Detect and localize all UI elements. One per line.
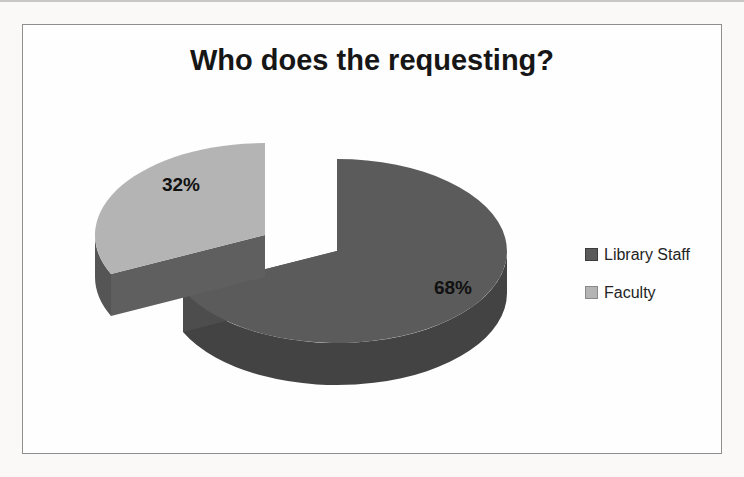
legend-label-faculty: Faculty <box>604 284 656 302</box>
legend-item-faculty: Faculty <box>585 281 690 304</box>
legend-label-library-staff: Library Staff <box>604 246 690 264</box>
pie-chart <box>0 0 744 477</box>
data-label-faculty: 32% <box>162 174 200 196</box>
data-label-library-staff: 68% <box>434 277 472 299</box>
legend: Library Staff Faculty <box>585 243 690 319</box>
legend-item-library-staff: Library Staff <box>585 243 690 266</box>
legend-swatch-faculty-icon <box>585 286 598 299</box>
legend-swatch-library-staff-icon <box>585 248 598 261</box>
scanned-chart-page: { "chart_data": { "type": "pie", "style"… <box>0 0 744 477</box>
